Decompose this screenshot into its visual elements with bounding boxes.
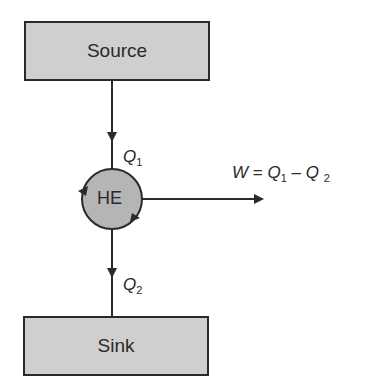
sink-label: Sink [98,335,135,357]
work-equation: W = Q1 – Q 2 [232,163,330,184]
q1-label: Q1 [123,147,142,168]
source-label: Source [87,40,147,62]
source-box: Source [24,21,210,81]
q2-label: Q2 [123,275,142,296]
engine-label: HE [97,188,122,209]
sink-box: Sink [23,316,209,376]
